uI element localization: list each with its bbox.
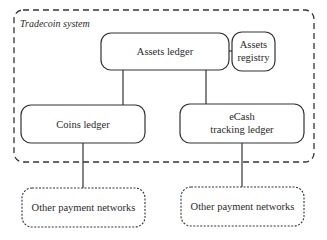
node-coins-ledger: Coins ledger (21, 105, 145, 143)
container-title: Tradecoin system (20, 18, 90, 29)
node-other-payment-networks-left: Other payment networks (22, 188, 145, 227)
node-assets-ledger: Assets ledger (101, 33, 229, 70)
ecash-label-line2: tracking ledger (210, 124, 274, 135)
node-ecash-tracking-ledger: eCash tracking ledger (180, 104, 304, 143)
other-networks-left-label: Other payment networks (32, 202, 136, 213)
assets-registry-label-line1: Assets (240, 39, 267, 50)
node-other-payment-networks-right: Other payment networks (181, 187, 304, 226)
assets-registry-label-line2: registry (237, 52, 270, 63)
assets-ledger-label: Assets ledger (137, 46, 194, 57)
other-networks-right-label: Other payment networks (191, 201, 295, 212)
tradecoin-diagram: Tradecoin system Assets ledger Assets re… (0, 0, 327, 240)
node-assets-registry: Assets registry (232, 32, 275, 71)
coins-ledger-label: Coins ledger (56, 119, 110, 130)
ecash-label-line1: eCash (229, 111, 255, 122)
